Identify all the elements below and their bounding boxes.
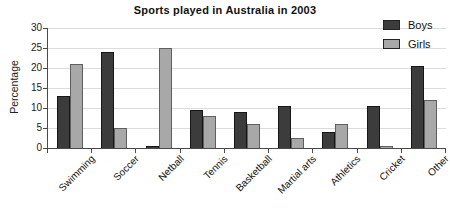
x-axis-label-tennis: Tennis: [201, 153, 229, 181]
x-axis-label-netball: Netball: [156, 153, 186, 183]
y-tick-label-15: 15: [12, 82, 42, 93]
bar-girls-netball: [159, 48, 172, 148]
y-tick-label-20: 20: [12, 62, 42, 73]
bar-girls-martial-arts: [291, 138, 304, 148]
y-tick-mark-10: [43, 108, 47, 109]
y-tick-label-30: 30: [12, 22, 42, 33]
y-tick-mark-15: [43, 88, 47, 89]
y-tick-mark-25: [43, 48, 47, 49]
x-axis-label-other: Other: [425, 153, 450, 178]
bar-girls-cricket: [380, 146, 393, 148]
bar-chart: Sports played in Australia in 2003 Perce…: [0, 0, 450, 208]
chart-title: Sports played in Australia in 2003: [0, 4, 450, 16]
x-tick-mark-2: [135, 149, 136, 153]
x-tick-mark-1: [91, 149, 92, 153]
bar-boys-cricket: [367, 106, 380, 148]
bar-boys-martial-arts: [278, 106, 291, 148]
x-axis-label-swimming: Swimming: [57, 153, 97, 193]
bar-girls-tennis: [203, 116, 216, 148]
x-tick-mark-6: [312, 149, 313, 153]
y-tick-label-0: 0: [12, 142, 42, 153]
y-tick-label-10: 10: [12, 102, 42, 113]
legend-row-girls: Girls: [383, 38, 432, 50]
bar-boys-athletics: [322, 132, 335, 148]
bar-boys-tennis: [190, 110, 203, 148]
y-tick-label-5: 5: [12, 122, 42, 133]
legend-swatch-girls: [383, 39, 400, 49]
legend: BoysGirls: [383, 19, 432, 57]
y-tick-mark-5: [43, 128, 47, 129]
bar-girls-swimming: [70, 64, 83, 148]
x-axis-label-martial-arts: Martial arts: [275, 153, 318, 196]
x-axis-label-basketball: Basketball: [233, 153, 273, 193]
bar-boys-other: [411, 66, 424, 148]
bar-boys-soccer: [101, 52, 114, 148]
x-tick-mark-3: [180, 149, 181, 153]
x-tick-mark-7: [357, 149, 358, 153]
y-tick-label-25: 25: [12, 42, 42, 53]
legend-swatch-boys: [383, 20, 400, 30]
bar-girls-basketball: [247, 124, 260, 148]
bar-boys-basketball: [234, 112, 247, 148]
bar-girls-other: [424, 100, 437, 148]
legend-row-boys: Boys: [383, 19, 432, 31]
x-tick-mark-8: [401, 149, 402, 153]
x-axis-label-soccer: Soccer: [111, 153, 141, 183]
x-tick-mark-5: [268, 149, 269, 153]
bar-girls-soccer: [114, 128, 127, 148]
x-axis-label-athletics: Athletics: [328, 153, 363, 188]
legend-label-boys: Boys: [408, 19, 432, 31]
bar-girls-athletics: [335, 124, 348, 148]
x-tick-mark-4: [224, 149, 225, 153]
bar-boys-swimming: [57, 96, 70, 148]
x-tick-mark-0: [47, 149, 48, 153]
x-tick-mark-9: [445, 149, 446, 153]
x-axis-label-cricket: Cricket: [377, 153, 407, 183]
y-tick-mark-30: [43, 28, 47, 29]
legend-label-girls: Girls: [408, 38, 431, 50]
bar-boys-netball: [146, 146, 159, 148]
y-tick-mark-20: [43, 68, 47, 69]
